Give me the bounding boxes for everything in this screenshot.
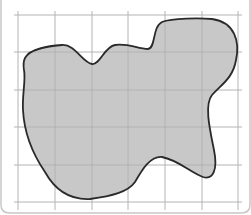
grid-figure: [0, 0, 251, 215]
blob-on-grid-diagram: [0, 0, 251, 215]
